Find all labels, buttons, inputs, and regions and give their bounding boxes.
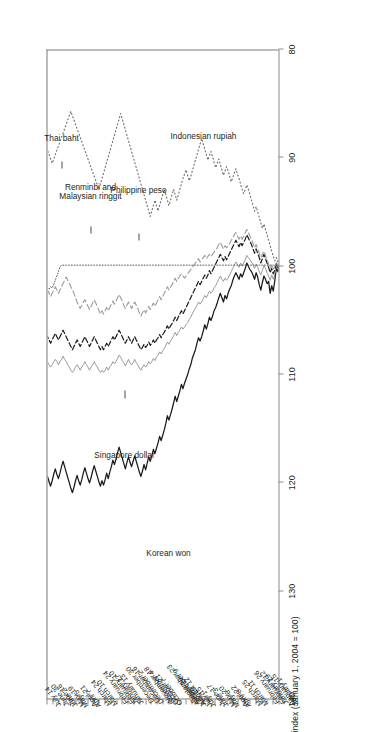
annotation-thai-baht-leader — [61, 161, 62, 168]
series-canvas — [47, 49, 278, 698]
value-tick-label: 110 — [286, 367, 296, 381]
series-line — [47, 263, 278, 493]
value-axis-title: index (January 1, 2004 = 100) — [289, 616, 299, 732]
date-tick — [185, 699, 186, 704]
value-tick-label: 130 — [286, 583, 296, 598]
figure-root: index (January 1, 2004 = 100) 1401301201… — [0, 0, 375, 732]
rotated-figure-stage: index (January 1, 2004 = 100) 1401301201… — [0, 0, 375, 732]
value-tick — [278, 156, 283, 157]
value-tick — [278, 48, 283, 49]
value-tick-label: 90 — [286, 152, 296, 162]
series-line — [47, 111, 278, 265]
plot-area — [46, 49, 278, 699]
series-line — [47, 234, 278, 349]
value-tick — [278, 265, 283, 266]
value-tick-label: 120 — [286, 475, 296, 490]
date-tick — [46, 699, 47, 704]
annotation-renminbi-ringgit-leader — [90, 226, 91, 233]
value-tick — [278, 590, 283, 591]
value-tick — [278, 481, 283, 482]
value-tick — [278, 373, 283, 374]
annotation-philippine-peso-leader — [138, 233, 139, 240]
series-line — [47, 265, 278, 289]
value-tick-label: 100 — [286, 258, 296, 273]
annotation-singapore-dollar-leader — [124, 390, 125, 398]
value-tick-label: 80 — [286, 44, 296, 54]
